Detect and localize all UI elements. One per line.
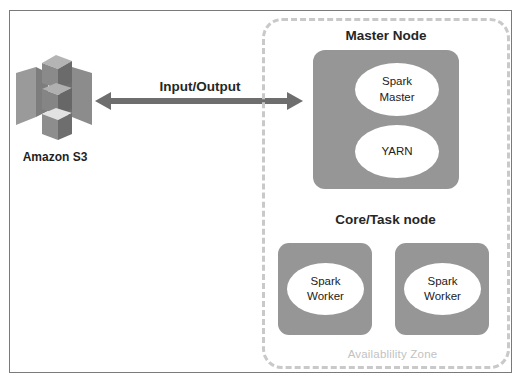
spark-worker-1-label-line2: Worker [307,289,344,304]
spark-worker-component-1[interactable]: Spark Worker [287,263,364,315]
spark-master-label-line2: Master [379,90,414,105]
master-node-title: Master Node [313,28,459,43]
spark-master-component[interactable]: Spark Master [355,63,439,116]
core-task-node-box-1[interactable]: Spark Worker [278,243,372,335]
core-task-node-box-2[interactable]: Spark Worker [395,243,489,335]
diagram-canvas: Amazon S3 Input/Output Availablility Zon… [0,0,523,385]
yarn-label-line1: YARN [381,144,412,159]
amazon-s3-icon [16,55,92,145]
spark-worker-component-2[interactable]: Spark Worker [404,263,481,315]
core-task-node-title: Core/Task node [308,212,463,227]
spark-worker-1-label-line1: Spark [310,274,340,289]
spark-master-label-line1: Spark [382,74,412,89]
spark-worker-2-label-line1: Spark [427,274,457,289]
spark-worker-2-label-line2: Worker [424,289,461,304]
master-node-box[interactable]: Spark Master YARN [313,50,459,189]
yarn-component[interactable]: YARN [355,125,439,178]
availability-zone-label: Availablility Zone [300,348,485,360]
amazon-s3-label: Amazon S3 [6,150,104,164]
